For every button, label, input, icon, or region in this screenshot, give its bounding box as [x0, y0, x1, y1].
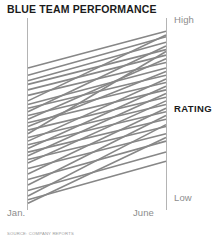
slope-lines-svg	[0, 0, 222, 244]
axis-tick-jan: Jan.	[7, 207, 25, 218]
plot-area	[0, 0, 222, 244]
slope-line-group	[28, 31, 166, 203]
source-note: SOURCE: COMPANY REPORTS	[7, 231, 74, 236]
slope-line	[28, 42, 166, 80]
slope-line	[28, 55, 166, 90]
slope-chart: BLUE TEAM PERFORMANCE High RATING Low Ja…	[0, 0, 222, 244]
axis-label-low: Low	[174, 192, 192, 203]
axis-title-rating: RATING	[174, 103, 212, 114]
axis-tick-june: June	[133, 207, 154, 218]
slope-line	[28, 31, 166, 68]
axis-label-high: High	[174, 14, 194, 25]
